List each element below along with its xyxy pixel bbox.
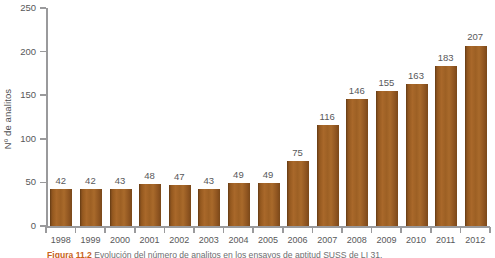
y-axis-line	[46, 8, 48, 227]
x-axis-tick	[252, 227, 254, 233]
x-axis-tick	[489, 227, 491, 233]
x-axis-tick	[460, 227, 462, 233]
figure-caption-text: Evolución del número de analitos en los …	[94, 250, 382, 258]
x-axis-tick	[104, 227, 106, 233]
x-axis-tick	[282, 227, 284, 233]
x-axis-tick	[371, 227, 373, 233]
y-axis-tick	[40, 138, 46, 140]
bar[interactable]	[287, 161, 309, 226]
x-axis-tick	[400, 227, 402, 233]
x-axis-tick	[164, 227, 166, 233]
x-axis-tick	[75, 227, 77, 233]
bar-value-label: 75	[278, 148, 318, 158]
bar[interactable]	[435, 66, 457, 226]
figure-container: Nº de analitos 050100150200250 424243484…	[0, 0, 495, 258]
bar[interactable]	[406, 84, 428, 226]
y-axis-tick	[40, 94, 46, 96]
x-axis-tick	[45, 227, 47, 233]
bar[interactable]	[198, 189, 220, 226]
y-axis-tick-label: 100	[2, 134, 36, 144]
bar[interactable]	[50, 189, 72, 226]
x-axis-tick	[341, 227, 343, 233]
x-axis-line	[46, 226, 490, 228]
x-axis-tick	[223, 227, 225, 233]
x-axis-tick	[312, 227, 314, 233]
y-axis-tick	[40, 51, 46, 53]
bar[interactable]	[376, 91, 398, 226]
bar[interactable]	[80, 189, 102, 226]
y-axis-tick	[40, 7, 46, 9]
x-axis-tick	[430, 227, 432, 233]
bar[interactable]	[317, 125, 339, 226]
bar[interactable]	[139, 184, 161, 226]
bar-value-label: 207	[455, 32, 495, 42]
y-axis-tick-label: 200	[2, 47, 36, 57]
y-axis-tick-label: 0	[2, 221, 36, 231]
y-axis-tick-label: 250	[2, 3, 36, 13]
bar-value-label: 163	[396, 71, 436, 81]
x-axis-tick	[134, 227, 136, 233]
figure-caption-tag: Figura 11.2	[47, 250, 92, 258]
bar[interactable]	[258, 183, 280, 226]
bar[interactable]	[346, 99, 368, 226]
bar-value-label: 183	[426, 53, 466, 63]
figure-caption: Figura 11.2 Evolución del número de anal…	[47, 250, 477, 258]
bar[interactable]	[228, 183, 250, 226]
y-axis-tick-label: 150	[2, 90, 36, 100]
bar[interactable]	[465, 46, 487, 227]
bar-value-label: 116	[307, 112, 347, 122]
bar[interactable]	[110, 189, 132, 226]
y-axis-title: Nº de analitos	[2, 4, 16, 234]
y-axis-tick-label: 50	[2, 177, 36, 187]
x-axis-tick	[193, 227, 195, 233]
bar-value-label: 49	[248, 170, 288, 180]
x-axis-tick-label: 2012	[455, 236, 495, 245]
bar[interactable]	[169, 185, 191, 226]
